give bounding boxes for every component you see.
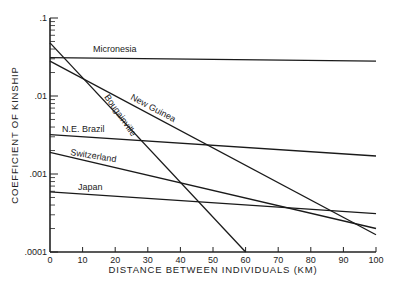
x-axis-label: DISTANCE BETWEEN INDIVIDUALS (KM) <box>109 264 318 275</box>
series-label-japan: Japan <box>78 182 103 192</box>
series-label-switzerland: Switzerland <box>70 147 118 164</box>
series-lines <box>50 43 376 252</box>
y-tick-label: .0001 <box>24 247 47 257</box>
kinship-distance-chart: 0102030405060708090100.1.01.001.0001 Mic… <box>0 0 395 288</box>
series-line-micronesia <box>50 58 376 61</box>
x-tick-label: 90 <box>338 255 348 265</box>
y-tick-label: .001 <box>29 169 47 179</box>
series-line-new-guinea <box>50 61 376 235</box>
x-tick-label: 0 <box>47 255 52 265</box>
y-tick-label: .01 <box>34 91 47 101</box>
axes: 0102030405060708090100.1.01.001.0001 <box>24 13 383 265</box>
series-label-n-e-brazil: N.E. Brazil <box>62 124 105 134</box>
chart-svg: 0102030405060708090100.1.01.001.0001 Mic… <box>0 0 395 288</box>
y-tick-label: .1 <box>39 13 47 23</box>
y-axis-label: COEFFICIENT OF KINSHIP <box>9 66 20 203</box>
series-line-japan <box>50 192 376 214</box>
series-label-micronesia: Micronesia <box>93 44 137 54</box>
series-labels: MicronesiaNew GuineaBougainvilleN.E. Bra… <box>62 44 177 192</box>
x-tick-label: 100 <box>368 255 383 265</box>
series-label-new-guinea: New Guinea <box>129 92 177 124</box>
x-tick-label: 10 <box>78 255 88 265</box>
